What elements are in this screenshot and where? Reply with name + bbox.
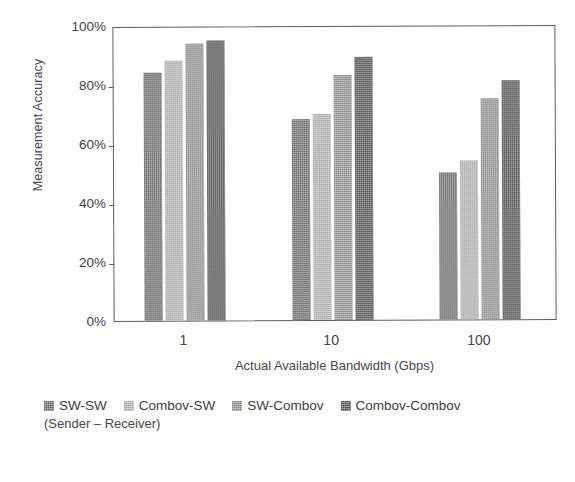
legend-item[interactable]: SW-SW <box>44 398 107 413</box>
y-axis-tick-label: 60% <box>79 137 106 152</box>
legend-item[interactable]: Combov-SW <box>124 398 216 413</box>
bars-container <box>113 26 555 321</box>
y-axis-tick-mark <box>109 205 114 206</box>
bar <box>502 80 521 319</box>
bar <box>144 73 163 321</box>
legend-item-label: SW-SW <box>59 398 107 413</box>
bar <box>206 40 225 320</box>
y-axis-title: Measurement Accuracy <box>31 25 45 225</box>
y-axis-tick-mark <box>109 264 114 265</box>
bar <box>354 57 373 320</box>
legend: SW-SWCombov-SWSW-CombovCombov-Combov (Se… <box>44 398 564 431</box>
bar <box>460 160 479 319</box>
y-axis-tick-mark <box>109 87 114 88</box>
legend-item-label: Combov-Combov <box>356 398 461 413</box>
x-axis-tick-label: 1 <box>180 332 188 348</box>
legend-item-label: Combov-SW <box>139 398 216 413</box>
plot-area <box>112 25 556 322</box>
bar-chart: Measurement Accuracy 0%20%40%60%80%100% … <box>0 0 575 482</box>
bar <box>185 43 204 320</box>
y-axis-tick-label: 40% <box>79 196 106 211</box>
legend-note: (Sender – Receiver) <box>44 416 564 431</box>
legend-item[interactable]: SW-Combov <box>232 398 323 413</box>
legend-swatch-icon <box>124 401 134 411</box>
bar <box>291 120 310 321</box>
y-axis-tick-label: 80% <box>79 78 106 93</box>
y-axis-tick-mark <box>109 146 114 147</box>
legend-swatch-icon <box>232 401 242 411</box>
y-axis-tick-label: 0% <box>86 314 106 329</box>
bar <box>312 114 331 321</box>
bar-group <box>143 27 225 320</box>
bar <box>333 75 352 320</box>
legend-item[interactable]: Combov-Combov <box>341 398 461 413</box>
legend-swatch-icon <box>341 401 351 411</box>
legend-swatch-icon <box>44 401 54 411</box>
x-axis-tick-label: 10 <box>323 332 339 348</box>
y-axis-tick-label: 100% <box>71 19 106 34</box>
bar <box>481 98 500 319</box>
bar <box>165 61 184 321</box>
legend-item-label: SW-Combov <box>247 398 323 413</box>
y-axis-tick-label: 20% <box>79 255 106 270</box>
bar-group <box>439 26 521 319</box>
x-axis-title: Actual Available Bandwidth (Gbps) <box>113 358 556 373</box>
legend-items: SW-SWCombov-SWSW-CombovCombov-Combov <box>44 398 564 413</box>
bar-group <box>291 27 373 320</box>
x-axis-tick-labels: 110100 <box>113 332 556 356</box>
bar <box>439 172 458 320</box>
x-axis-tick-label: 100 <box>467 332 490 348</box>
y-axis-tick-labels: 0%20%40%60%80%100% <box>50 18 106 326</box>
